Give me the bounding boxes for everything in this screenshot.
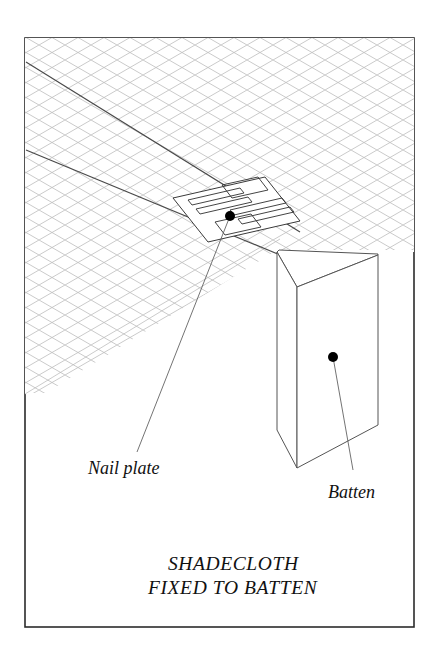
shadecloth-batten-illustration: Nail plate Batten SHADECLOTH FIXED TO BA… <box>0 0 438 657</box>
caption-line-2: FIXED TO BATTEN <box>147 577 318 598</box>
batten-label: Batten <box>328 482 375 502</box>
nail-plate-leader-dot <box>225 211 235 221</box>
nail-plate-label: Nail plate <box>87 458 160 478</box>
figure-root: Nail plate Batten SHADECLOTH FIXED TO BA… <box>0 0 438 657</box>
batten-front-face <box>297 255 378 468</box>
batten <box>277 250 378 468</box>
batten-end-face <box>277 252 297 468</box>
caption-line-1: SHADECLOTH <box>168 553 299 574</box>
batten-leader-dot <box>328 352 338 362</box>
